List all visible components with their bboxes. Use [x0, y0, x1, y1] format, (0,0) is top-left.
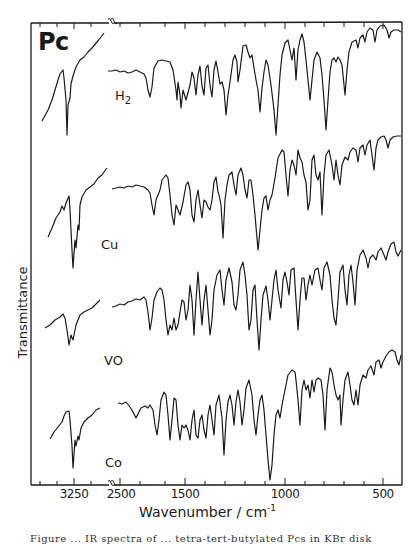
series-label-co: Co: [105, 455, 122, 470]
y-axis-label: Transmittance: [15, 263, 30, 363]
chart-title: Pc: [38, 28, 69, 56]
series-label-base: H: [115, 88, 125, 103]
x-tick-1500: 1500: [171, 487, 200, 501]
series-label-h2: H2: [115, 88, 131, 106]
figure-caption: Figure ... IR spectra of ... tetra-tert-…: [30, 533, 372, 544]
x-axis-label: Wavenumber / cm-1: [139, 503, 276, 520]
plot-frame: [31, 22, 402, 485]
x-tick-3250: 3250: [60, 487, 89, 501]
series-label-cu: Cu: [101, 237, 118, 252]
x-tick-1000: 1000: [271, 487, 300, 501]
spectrum-h2: [42, 25, 401, 135]
x-axis-label-base: Wavenumber / cm: [139, 504, 267, 520]
x-tick-500: 500: [372, 487, 393, 501]
series-label-sub: 2: [125, 95, 131, 106]
x-tick-2500: 2500: [107, 487, 136, 501]
spectrum-vo: [45, 242, 401, 350]
spectrum-co: [50, 350, 401, 480]
x-axis-label-sup: -1: [267, 503, 276, 513]
series-label-vo: VO: [104, 353, 123, 368]
